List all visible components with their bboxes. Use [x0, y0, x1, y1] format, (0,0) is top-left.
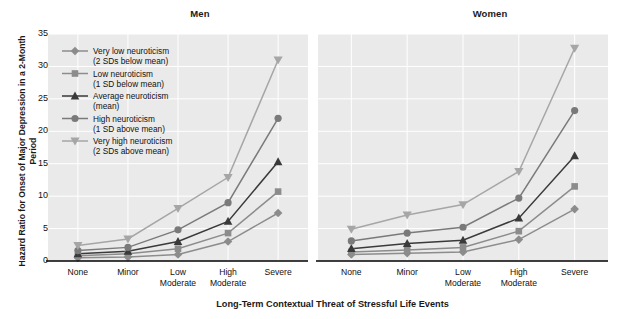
- data-point-marker: [124, 244, 131, 251]
- data-point-marker: [72, 70, 79, 77]
- data-point-marker: [275, 188, 282, 195]
- y-tick-label: 25: [24, 93, 48, 103]
- data-point-marker: [571, 183, 578, 190]
- panel-women: [316, 34, 608, 261]
- data-point-marker: [404, 230, 411, 237]
- data-point-marker: [571, 107, 578, 114]
- data-point-marker: [459, 224, 466, 231]
- legend-label-primary: Very low neuroticism: [93, 46, 169, 56]
- legend-label-secondary: (2 SDs below mean): [93, 56, 168, 66]
- y-axis-tick-labels: 05101520253035: [22, 0, 48, 319]
- data-point-marker: [174, 226, 181, 233]
- x-tick-label: HighModerate: [488, 267, 550, 288]
- x-tick-label: Severe: [544, 267, 606, 278]
- data-point-marker: [404, 247, 411, 254]
- legend-label-secondary: (2 SDs above mean): [93, 146, 169, 156]
- y-tick-label: 5: [24, 223, 48, 233]
- data-point-marker: [175, 245, 182, 252]
- data-point-marker: [515, 194, 522, 201]
- data-point-marker: [224, 199, 231, 206]
- panel-title-women: Women: [390, 8, 590, 19]
- data-point-marker: [275, 115, 282, 122]
- panel-title-men: Men: [100, 8, 300, 19]
- y-tick-label: 35: [24, 28, 48, 38]
- y-tick-label: 0: [24, 255, 48, 265]
- data-point-marker: [225, 230, 232, 237]
- legend-label-primary: High neuroticism: [93, 114, 155, 124]
- data-point-marker: [460, 244, 467, 251]
- legend-label-primary: Average neuroticism: [93, 91, 169, 101]
- legend-label-secondary: (1 SD below mean): [93, 79, 164, 89]
- x-tick-label: Severe: [247, 267, 309, 278]
- y-tick-label: 15: [24, 158, 48, 168]
- x-tick-label: Minor: [376, 267, 438, 278]
- y-tick-label: 20: [24, 125, 48, 135]
- data-point-marker: [71, 115, 78, 122]
- data-point-marker: [516, 228, 523, 235]
- legend-label-primary: Low neuroticism: [93, 69, 153, 79]
- figure-root: Men Women Hazard Ratio for Onset of Majo…: [0, 0, 620, 319]
- y-tick-label: 30: [24, 60, 48, 70]
- legend-label-primary: Very high neuroticism: [93, 136, 172, 146]
- x-tick-label: LowModerate: [432, 267, 494, 288]
- legend-label-secondary: (1 SD above mean): [93, 124, 165, 134]
- legend-label-secondary: (mean): [93, 101, 120, 111]
- x-tick-label: None: [320, 267, 382, 278]
- x-axis-title: Long-Term Contextual Threat of Stressful…: [60, 299, 605, 309]
- panel-men: [46, 34, 308, 262]
- y-tick-label: 10: [24, 190, 48, 200]
- data-point-marker: [348, 237, 355, 244]
